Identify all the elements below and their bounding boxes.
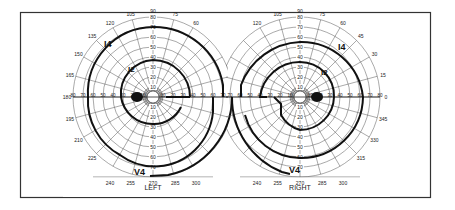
radial-label: 80 bbox=[70, 93, 76, 98]
meridian-label: 300 bbox=[339, 180, 348, 186]
right-isopter-label-I2: I2 bbox=[321, 68, 328, 77]
meridian-label: 240 bbox=[106, 180, 115, 186]
radial-label: 40 bbox=[297, 134, 303, 140]
meridian-label: 15 bbox=[380, 72, 386, 78]
left-isopter-label-I4: I4 bbox=[104, 39, 112, 49]
meridian-label: 60 bbox=[193, 20, 199, 26]
radial-label: 20 bbox=[150, 114, 156, 120]
left-isopter-label-I2: I2 bbox=[128, 65, 135, 74]
radial-label: 10 bbox=[160, 93, 166, 98]
meridian-label: 105 bbox=[127, 11, 136, 17]
left-blind-spot bbox=[131, 92, 143, 102]
meridian-label: 60 bbox=[340, 20, 346, 26]
radial-label: 20 bbox=[277, 93, 283, 98]
visual-field-figure: 9010512013515016518019521022524025527028… bbox=[0, 0, 455, 210]
meridian-label: 150 bbox=[74, 51, 83, 57]
meridian-label: 45 bbox=[358, 33, 364, 39]
radial-label: 60 bbox=[150, 154, 156, 160]
right-blind-spot bbox=[311, 92, 323, 102]
radial-label: 70 bbox=[367, 93, 373, 98]
meridian-label: 0 bbox=[385, 94, 388, 100]
radial-label: 20 bbox=[150, 74, 156, 80]
right-isopter-label-V4: V4 bbox=[289, 165, 300, 175]
meridian-label: 300 bbox=[192, 180, 201, 186]
radial-label: 20 bbox=[297, 114, 303, 120]
radial-label: 50 bbox=[297, 144, 303, 150]
radial-label: 50 bbox=[200, 93, 206, 98]
right-eye-label: RIGHT bbox=[289, 184, 312, 191]
radial-label: 70 bbox=[80, 93, 86, 98]
radial-label: 50 bbox=[150, 144, 156, 150]
radial-label: 40 bbox=[150, 134, 156, 140]
radial-label: 50 bbox=[100, 93, 106, 98]
right-isopter-label-I4: I4 bbox=[338, 42, 346, 52]
meridian-label: 105 bbox=[274, 11, 283, 17]
figure-frame bbox=[21, 13, 431, 198]
meridian-label: 165 bbox=[66, 72, 75, 78]
meridian-label: 255 bbox=[274, 180, 283, 186]
radial-label: 40 bbox=[190, 93, 196, 98]
meridian-label: 120 bbox=[253, 20, 262, 26]
meridian-label: 255 bbox=[127, 180, 136, 186]
meridian-label: 75 bbox=[172, 11, 178, 17]
radial-label: 30 bbox=[297, 64, 303, 70]
radial-label: 40 bbox=[337, 93, 343, 98]
meridian-label: 285 bbox=[318, 180, 327, 186]
meridian-label: 135 bbox=[88, 33, 97, 39]
meridian-label: 285 bbox=[171, 180, 180, 186]
radial-label: 60 bbox=[297, 34, 303, 40]
radial-label: 10 bbox=[297, 104, 303, 110]
radial-label: 60 bbox=[150, 34, 156, 40]
meridian-label: 225 bbox=[88, 155, 97, 161]
meridian-label: 240 bbox=[253, 180, 262, 186]
radial-label: 10 bbox=[297, 84, 303, 90]
radial-label: 20 bbox=[297, 74, 303, 80]
radial-label: 60 bbox=[90, 93, 96, 98]
meridian-label: 120 bbox=[106, 20, 115, 26]
meridian-label: 75 bbox=[319, 11, 325, 17]
radial-label: 40 bbox=[297, 54, 303, 60]
meridian-label: 330 bbox=[370, 137, 379, 143]
radial-label: 10 bbox=[287, 93, 293, 98]
left-isopter-label-V4: V4 bbox=[134, 167, 145, 177]
radial-label: 50 bbox=[297, 44, 303, 50]
radial-label: 80 bbox=[377, 93, 383, 98]
radial-label: 70 bbox=[297, 24, 303, 30]
meridian-label: 345 bbox=[379, 116, 388, 122]
meridian-label: 30 bbox=[372, 51, 378, 57]
meridian-label: 195 bbox=[66, 116, 75, 122]
radial-label: 10 bbox=[150, 104, 156, 110]
radial-label: 30 bbox=[327, 93, 333, 98]
radial-label: 80 bbox=[297, 14, 303, 20]
meridian-label: 210 bbox=[74, 137, 83, 143]
radial-label: 40 bbox=[110, 93, 116, 98]
radial-label: 10 bbox=[150, 84, 156, 90]
radial-label: 80 bbox=[150, 14, 156, 20]
radial-label: 50 bbox=[150, 44, 156, 50]
radial-label: 30 bbox=[150, 64, 156, 70]
radial-label: 50 bbox=[247, 93, 253, 98]
radial-label: 50 bbox=[347, 93, 353, 98]
left-eye-label: LEFT bbox=[144, 184, 162, 191]
meridian-label: 315 bbox=[357, 155, 366, 161]
radial-label: 30 bbox=[267, 93, 273, 98]
